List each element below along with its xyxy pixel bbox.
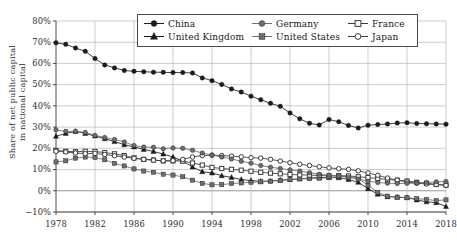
data-point-marker: [307, 170, 312, 175]
data-point-marker: [132, 167, 136, 171]
legend-item[interactable]: China: [143, 17, 251, 30]
data-point-marker: [54, 41, 59, 46]
data-point-marker: [259, 163, 264, 168]
data-point-marker: [151, 145, 156, 150]
data-point-marker: [181, 70, 186, 75]
data-point-marker: [259, 156, 264, 161]
data-point-marker: [93, 151, 98, 156]
data-point-marker: [298, 162, 303, 167]
data-point-marker: [239, 90, 244, 95]
data-point-marker: [327, 166, 332, 171]
data-point-marker: [288, 177, 292, 181]
data-point-marker: [278, 104, 283, 109]
chart-legend: ChinaGermanyFranceUnited KingdomUnited S…: [137, 14, 418, 47]
data-point-marker: [249, 180, 253, 184]
data-point-marker: [288, 172, 292, 176]
legend-item[interactable]: France: [347, 17, 412, 30]
data-point-marker: [103, 63, 108, 68]
data-point-marker: [54, 128, 59, 133]
data-point-marker: [376, 173, 381, 178]
data-point-marker: [376, 180, 381, 185]
legend-marker-glyph: [355, 34, 361, 40]
data-point-marker: [161, 159, 166, 164]
data-point-marker: [200, 76, 205, 81]
data-point-marker: [288, 168, 293, 173]
data-point-marker: [122, 68, 127, 73]
data-point-marker: [249, 94, 254, 99]
data-point-marker: [444, 198, 448, 202]
data-point-marker: [444, 179, 449, 184]
data-point-marker: [278, 159, 283, 164]
data-point-marker: [415, 181, 420, 186]
legend-marker-icon: [143, 31, 165, 42]
legend-item[interactable]: Japan: [347, 30, 412, 43]
data-point-marker: [239, 181, 243, 185]
legend-row: United KingdomUnited StatesJapan: [143, 30, 412, 43]
legend-item-label: United States: [276, 32, 340, 42]
data-point-marker: [229, 181, 233, 185]
data-point-marker: [268, 157, 273, 162]
data-point-marker: [83, 151, 88, 156]
data-point-marker: [210, 153, 215, 158]
data-point-marker: [434, 198, 438, 202]
data-point-marker: [317, 123, 322, 128]
data-point-marker: [268, 179, 272, 183]
data-point-marker: [103, 135, 108, 140]
data-point-marker: [239, 168, 243, 172]
data-point-marker: [405, 120, 410, 125]
data-point-marker: [327, 173, 332, 178]
data-point-marker: [405, 181, 410, 186]
legend-item-inner: France: [347, 17, 412, 30]
data-point-marker: [337, 166, 342, 171]
data-point-marker: [249, 161, 254, 166]
legend-marker-glyph: [151, 21, 157, 27]
data-point-marker: [278, 178, 282, 182]
data-point-marker: [73, 46, 78, 51]
data-point-marker: [220, 183, 224, 187]
data-point-marker: [307, 163, 312, 168]
data-point-marker: [259, 180, 263, 184]
data-point-marker: [171, 158, 176, 163]
data-point-marker: [415, 121, 420, 126]
data-point-marker: [112, 161, 116, 165]
legend-item-label: France: [372, 19, 405, 29]
data-point-marker: [122, 155, 127, 160]
data-point-marker: [142, 157, 147, 162]
data-point-marker: [356, 169, 361, 174]
data-point-marker: [239, 155, 244, 160]
data-point-marker: [64, 129, 69, 134]
data-point-marker: [395, 195, 399, 199]
data-point-marker: [151, 70, 156, 75]
data-point-marker: [64, 150, 69, 155]
data-point-marker: [366, 171, 371, 176]
data-point-marker: [73, 156, 77, 160]
data-point-marker: [83, 130, 88, 135]
data-point-marker: [112, 154, 117, 159]
data-point-marker: [181, 146, 186, 151]
data-point-marker: [376, 122, 381, 127]
data-point-marker: [181, 175, 185, 179]
data-point-marker: [424, 180, 429, 185]
data-point-marker: [151, 158, 156, 163]
legend-item[interactable]: United Kingdom: [143, 30, 251, 43]
data-point-marker: [122, 140, 127, 145]
data-point-marker: [220, 82, 225, 87]
data-point-marker: [64, 42, 69, 47]
data-point-marker: [434, 180, 439, 185]
data-point-marker: [376, 190, 380, 194]
data-point-marker: [385, 176, 390, 181]
legend-item[interactable]: Germany: [251, 17, 347, 30]
legend-marker-icon: [143, 18, 165, 29]
legend-item-inner: United Kingdom: [143, 30, 251, 43]
legend-row: ChinaGermanyFrance: [143, 17, 412, 30]
data-point-marker: [190, 178, 194, 182]
legend-item[interactable]: United States: [251, 30, 347, 43]
data-point-marker: [73, 129, 78, 134]
data-point-marker: [93, 56, 98, 61]
data-point-marker: [249, 169, 253, 173]
data-point-marker: [83, 49, 88, 54]
legend-marker-glyph: [259, 34, 265, 40]
data-point-marker: [190, 71, 195, 76]
data-point-marker: [190, 155, 195, 160]
data-point-marker: [317, 165, 322, 170]
